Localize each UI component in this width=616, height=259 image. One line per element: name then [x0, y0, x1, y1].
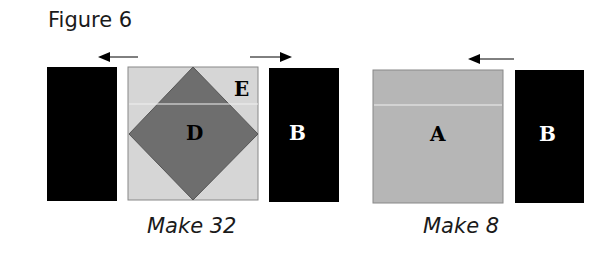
- caption-make-8: Make 8: [423, 214, 499, 238]
- arrow-left-icon: [98, 52, 138, 62]
- label-e: E: [234, 77, 249, 101]
- label-b: B: [539, 122, 556, 146]
- caption-make-32: Make 32: [147, 214, 236, 238]
- arrow-right-icon: [250, 52, 292, 62]
- arrow-left-icon: [468, 54, 514, 64]
- label-d: D: [186, 121, 203, 145]
- label-b: B: [289, 121, 306, 145]
- label-a: A: [430, 122, 446, 146]
